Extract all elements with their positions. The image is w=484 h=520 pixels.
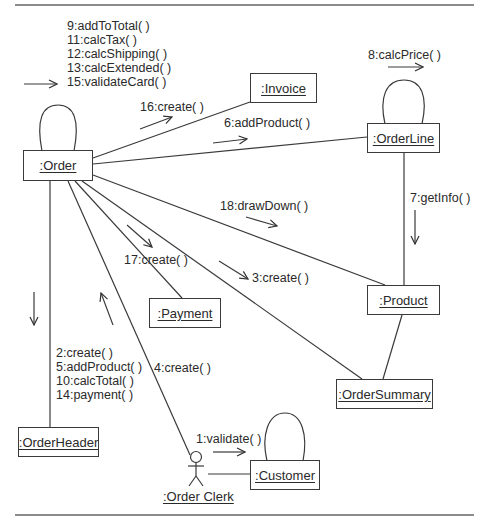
arrow-6-addproduct: [213, 139, 247, 143]
arrow-18-drawdown: [246, 217, 277, 226]
msg-8-calcprice: 8:calcPrice( ): [368, 48, 441, 62]
object-orderheader-label: :OrderHeader: [19, 435, 98, 450]
object-invoice[interactable]: :Invoice: [250, 73, 317, 103]
object-customer[interactable]: :Customer: [250, 460, 320, 490]
object-ordersummary[interactable]: :OrderSummary: [336, 379, 433, 409]
arrow-16-create: [140, 117, 172, 129]
actor-order-clerk-icon: [188, 452, 204, 487]
arrow-3-create: [219, 261, 248, 279]
msg-11: 11:calcTax( ): [67, 33, 171, 47]
order-self-loop: [40, 105, 77, 151]
msg-2: 2:create( ): [56, 346, 142, 360]
object-orderline[interactable]: :OrderLine: [367, 123, 440, 153]
object-order[interactable]: :Order: [23, 150, 93, 181]
msg-12: 12:calcShipping( ): [67, 47, 171, 61]
msg-3-create: 3:create( ): [252, 271, 309, 285]
msg-4-create: 4:create( ): [154, 361, 211, 375]
object-order-label: :Order: [40, 158, 77, 173]
object-payment-label: :Payment: [158, 306, 213, 321]
msg-6-addproduct: 6:addProduct( ): [224, 116, 310, 130]
msg-13: 13:calcExtended( ): [67, 61, 171, 75]
msg-5: 5:addProduct( ): [56, 360, 142, 374]
msg-15: 15:validateCard( ): [67, 75, 171, 89]
msg-7-getinfo: 7:getInfo( ): [410, 191, 470, 205]
object-customer-label: :Customer: [255, 468, 315, 483]
link-order-payment: [75, 181, 182, 298]
object-orderline-label: :OrderLine: [373, 131, 434, 146]
customer-self-loop: [265, 413, 305, 461]
msg-18-drawdown: 18:drawDown( ): [220, 199, 308, 213]
object-product-label: :Product: [379, 293, 427, 308]
object-ordersummary-label: :OrderSummary: [338, 387, 430, 402]
link-product-ordersummary: [383, 315, 402, 379]
object-payment[interactable]: :Payment: [149, 298, 221, 328]
object-invoice-label: :Invoice: [261, 81, 306, 96]
msg-14: 14:payment( ): [56, 388, 142, 402]
orderline-self-loop: [383, 80, 424, 124]
order-self-messages: 9:addToTotal( ) 11:calcTax( ) 12:calcShi…: [67, 19, 171, 89]
object-product[interactable]: :Product: [367, 285, 440, 315]
order-orderheader-messages: 2:create( ) 5:addProduct( ) 10:calcTotal…: [56, 346, 142, 402]
msg-16-create: 16:create( ): [140, 100, 204, 114]
arrow-4-create: [101, 293, 113, 325]
actor-order-clerk-label[interactable]: :Order Clerk: [163, 490, 234, 504]
object-orderheader[interactable]: :OrderHeader: [18, 427, 99, 457]
msg-17-create: 17:create( ): [124, 253, 188, 267]
link-order-product: [93, 175, 385, 285]
msg-1-validate: 1:validate( ): [196, 432, 261, 446]
msg-10: 10:calcTotal( ): [56, 374, 142, 388]
msg-9: 9:addToTotal( ): [67, 19, 171, 33]
